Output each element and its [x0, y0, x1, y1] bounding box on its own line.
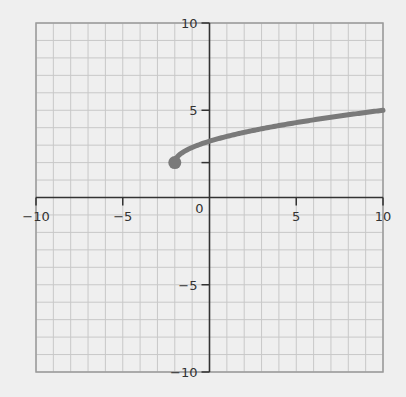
y-tick-label: −10	[170, 365, 197, 380]
x-tick-label: −10	[22, 209, 49, 224]
coordinate-plane: −10−5510105−5−100	[0, 0, 406, 397]
y-tick-label: 5	[189, 103, 197, 118]
y-tick-label: 10	[181, 16, 198, 31]
start-point-marker	[168, 156, 181, 169]
origin-label: 0	[195, 201, 203, 216]
graph-stage: −10−5510105−5−100	[0, 0, 406, 397]
x-tick-label: −5	[113, 209, 132, 224]
y-tick-label: −5	[178, 278, 197, 293]
x-tick-label: 10	[375, 209, 392, 224]
x-tick-label: 5	[292, 209, 300, 224]
